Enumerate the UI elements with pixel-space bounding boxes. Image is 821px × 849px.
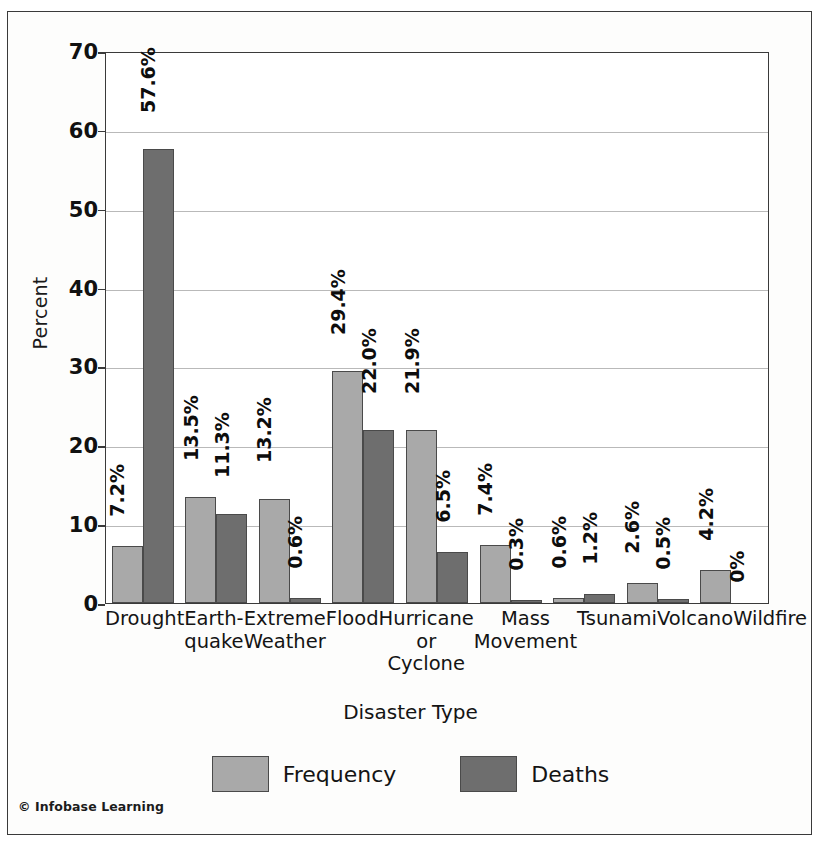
legend-label: Frequency <box>283 762 397 787</box>
x-axis-label-tsunami: Tsunami <box>577 608 657 676</box>
y-axis-tick-10: 10 <box>48 515 98 536</box>
legend-label: Deaths <box>531 762 609 787</box>
bar-frequency-volcano[interactable]: 2.6% <box>627 583 658 604</box>
y-axis-tick-0: 0 <box>48 594 98 615</box>
x-axis-label-line: or <box>379 631 474 654</box>
x-axis-tick-labels: DroughtEarth-quakeExtremeWeatherFloodHur… <box>105 608 769 676</box>
x-axis-label-mass-movement: MassMovement <box>474 608 577 676</box>
plot-area: 7.2%57.6%13.5%11.3%13.2%0.6%29.4%22.0%21… <box>105 52 769 604</box>
bar-deaths-drought[interactable]: 57.6% <box>143 149 174 603</box>
y-axis-tick-40: 40 <box>48 278 98 299</box>
bar-group: 7.4%0.3% <box>474 53 548 603</box>
bar-value-label: 0.6% <box>550 516 569 569</box>
bar-frequency-drought[interactable]: 7.2% <box>112 546 143 603</box>
legend-swatch-frequency <box>212 756 269 792</box>
bar-group: 13.5%11.3% <box>180 53 254 603</box>
x-axis-title: Disaster Type <box>8 700 813 724</box>
bar-slot: 57.6% <box>143 53 174 603</box>
bar-group: 7.2%57.6% <box>106 53 180 603</box>
bar-slot: 1.2% <box>584 53 615 603</box>
bar-value-label: 0% <box>728 551 747 583</box>
bar-slot: 0.3% <box>511 53 542 603</box>
bar-slot: 6.5% <box>437 53 468 603</box>
bar-group: 4.2%0% <box>695 53 769 603</box>
bar-value-label: 2.6% <box>623 500 642 553</box>
x-axis-label-line: Volcano <box>657 608 733 631</box>
x-axis-label-line: Earth- <box>184 608 243 631</box>
bar-value-label: 13.2% <box>255 397 274 463</box>
y-axis-tick-70: 70 <box>48 42 98 63</box>
bar-groups: 7.2%57.6%13.5%11.3%13.2%0.6%29.4%22.0%21… <box>106 53 768 603</box>
bar-group: 21.9%6.5% <box>400 53 474 603</box>
x-axis-label-line: Mass <box>474 608 577 631</box>
x-axis-label-volcano: Volcano <box>657 608 733 676</box>
legend: FrequencyDeaths <box>8 756 813 792</box>
legend-entry-frequency[interactable]: Frequency <box>212 756 397 792</box>
y-axis-tick-mark <box>98 446 105 448</box>
y-axis-tick-mark <box>98 131 105 133</box>
bar-value-label: 4.2% <box>697 488 716 541</box>
bar-value-label: 7.4% <box>476 463 495 516</box>
bar-deaths-volcano[interactable]: 0.5% <box>658 599 689 603</box>
x-axis-label-line: Extreme <box>244 608 326 631</box>
bar-deaths-mass-movement[interactable]: 0.3% <box>511 600 542 603</box>
x-axis-label-hurricane-or-cyclone: HurricaneorCyclone <box>379 608 474 676</box>
bar-frequency-tsunami[interactable]: 0.6% <box>553 598 584 603</box>
bar-slot: 13.5% <box>185 53 216 603</box>
bar-deaths-flood[interactable]: 22.0% <box>363 430 394 603</box>
x-axis-label-line: quake <box>184 631 243 654</box>
bar-value-label: 7.2% <box>108 464 127 517</box>
bar-frequency-earthquake[interactable]: 13.5% <box>185 497 216 603</box>
bar-deaths-earthquake[interactable]: 11.3% <box>216 514 247 603</box>
bar-deaths-extreme-weather[interactable]: 0.6% <box>290 598 321 603</box>
x-axis-label-flood: Flood <box>326 608 379 676</box>
x-axis-label-extreme-weather: ExtremeWeather <box>244 608 326 676</box>
y-axis-tick-mark <box>98 289 105 291</box>
bar-value-label: 21.9% <box>403 328 422 394</box>
y-axis-tick-mark <box>98 52 105 54</box>
bar-value-label: 57.6% <box>139 47 158 113</box>
y-axis-tick-mark <box>98 604 105 606</box>
x-axis-label-earthquake: Earth-quake <box>184 608 243 676</box>
bar-value-label: 22.0% <box>360 328 379 394</box>
x-axis-label-line: Drought <box>105 608 184 631</box>
x-axis-label-line: Weather <box>244 631 326 654</box>
bar-value-label: 29.4% <box>329 269 348 335</box>
bar-slot: 0.5% <box>658 53 689 603</box>
bar-group: 0.6%1.2% <box>547 53 621 603</box>
bar-value-label: 1.2% <box>581 511 600 564</box>
x-axis-label-line: Movement <box>474 631 577 654</box>
bar-slot: 7.2% <box>112 53 143 603</box>
bar-value-label: 0.3% <box>507 518 526 571</box>
y-axis-tick-labels: 010203040506070 <box>48 42 98 604</box>
bar-deaths-tsunami[interactable]: 1.2% <box>584 594 615 603</box>
bar-deaths-hurricane-or-cyclone[interactable]: 6.5% <box>437 552 468 603</box>
x-axis-label-line: Hurricane <box>379 608 474 631</box>
y-axis-tick-50: 50 <box>48 199 98 220</box>
bar-slot: 22.0% <box>363 53 394 603</box>
bar-slot: 11.3% <box>216 53 247 603</box>
bar-group: 2.6%0.5% <box>621 53 695 603</box>
x-axis-label-line: Tsunami <box>577 608 657 631</box>
x-axis-label-drought: Drought <box>105 608 184 676</box>
bar-value-label: 11.3% <box>213 412 232 478</box>
bar-frequency-flood[interactable]: 29.4% <box>332 371 363 603</box>
figure-frame: Percent 010203040506070 7.2%57.6%13.5%11… <box>7 11 812 835</box>
legend-entry-deaths[interactable]: Deaths <box>460 756 609 792</box>
x-axis-label-line: Flood <box>326 608 379 631</box>
x-axis-label-line: Cyclone <box>379 653 474 676</box>
bar-value-label: 6.5% <box>434 470 453 523</box>
bar-chart: Percent 010203040506070 7.2%57.6%13.5%11… <box>8 12 813 836</box>
x-axis-label-wildfire: Wildfire <box>733 608 807 676</box>
bar-slot: 4.2% <box>700 53 731 603</box>
y-axis-tick-30: 30 <box>48 357 98 378</box>
bar-group: 29.4%22.0% <box>327 53 401 603</box>
copyright-notice: © Infobase Learning <box>18 799 164 814</box>
bar-value-label: 13.5% <box>182 395 201 461</box>
y-axis-tick-60: 60 <box>48 120 98 141</box>
bar-value-label: 0.6% <box>286 516 305 569</box>
bar-slot: 0.6% <box>290 53 321 603</box>
bar-group: 13.2%0.6% <box>253 53 327 603</box>
y-axis-tick-mark <box>98 525 105 527</box>
bar-value-label: 0.5% <box>654 517 673 570</box>
